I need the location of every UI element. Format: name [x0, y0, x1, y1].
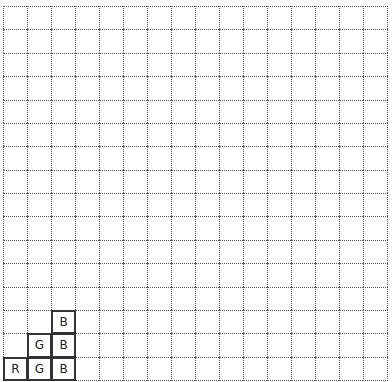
- board-cell[interactable]: [195, 333, 219, 356]
- board-cell[interactable]: [123, 287, 147, 310]
- board-cell[interactable]: [99, 123, 123, 146]
- board-cell[interactable]: [99, 146, 123, 169]
- board-cell[interactable]: [315, 146, 339, 169]
- board-cell[interactable]: [27, 6, 51, 29]
- board-cell[interactable]: [243, 193, 267, 216]
- board-cell[interactable]: [291, 287, 315, 310]
- board-cell[interactable]: [291, 53, 315, 76]
- board-cell[interactable]: [291, 6, 315, 29]
- board-cell[interactable]: [51, 29, 75, 52]
- board-cell[interactable]: [27, 76, 51, 99]
- board-cell[interactable]: [195, 6, 219, 29]
- board-cell[interactable]: [75, 170, 99, 193]
- piece-g[interactable]: G: [27, 357, 52, 381]
- board-cell[interactable]: [315, 29, 339, 52]
- board-cell[interactable]: [363, 193, 388, 216]
- board-cell[interactable]: [267, 357, 291, 381]
- board-cell[interactable]: [171, 76, 195, 99]
- board-cell[interactable]: [339, 263, 363, 286]
- board-cell[interactable]: [3, 100, 27, 123]
- board-cell[interactable]: [267, 146, 291, 169]
- board-cell[interactable]: [291, 123, 315, 146]
- board-cell[interactable]: [123, 29, 147, 52]
- board-cell[interactable]: [363, 287, 388, 310]
- board-cell[interactable]: [27, 146, 51, 169]
- board-cell[interactable]: [51, 263, 75, 286]
- board-cell[interactable]: [123, 263, 147, 286]
- board-cell[interactable]: [363, 357, 388, 381]
- board-cell[interactable]: [363, 333, 388, 356]
- board-cell[interactable]: [243, 123, 267, 146]
- board-cell[interactable]: [243, 100, 267, 123]
- board-cell[interactable]: [147, 170, 171, 193]
- board-cell[interactable]: [219, 333, 243, 356]
- board-cell[interactable]: [147, 29, 171, 52]
- board-cell[interactable]: [147, 6, 171, 29]
- board-cell[interactable]: [99, 310, 123, 333]
- board-cell[interactable]: [171, 263, 195, 286]
- board-cell[interactable]: [339, 170, 363, 193]
- board-cell[interactable]: [3, 6, 27, 29]
- board-cell[interactable]: [339, 216, 363, 239]
- board-cell[interactable]: [291, 146, 315, 169]
- board-cell[interactable]: [75, 333, 99, 356]
- board-cell[interactable]: [3, 240, 27, 263]
- board-cell[interactable]: [339, 123, 363, 146]
- board-cell[interactable]: [123, 170, 147, 193]
- board-cell[interactable]: [315, 216, 339, 239]
- board-cell[interactable]: [219, 216, 243, 239]
- board-cell[interactable]: [75, 216, 99, 239]
- board-cell[interactable]: [3, 333, 27, 356]
- board-cell[interactable]: [123, 310, 147, 333]
- board-cell[interactable]: [315, 53, 339, 76]
- board-cell[interactable]: [123, 6, 147, 29]
- board-cell[interactable]: [75, 310, 99, 333]
- board-cell[interactable]: [291, 333, 315, 356]
- board-cell[interactable]: [3, 310, 27, 333]
- board-cell[interactable]: [291, 310, 315, 333]
- board-cell[interactable]: [219, 29, 243, 52]
- board-cell[interactable]: [195, 357, 219, 381]
- board-cell[interactable]: [219, 6, 243, 29]
- board-cell[interactable]: [147, 357, 171, 381]
- board-cell[interactable]: [171, 193, 195, 216]
- board-cell[interactable]: [363, 53, 388, 76]
- board-cell[interactable]: [291, 216, 315, 239]
- board-cell[interactable]: [267, 263, 291, 286]
- board-cell[interactable]: [171, 53, 195, 76]
- board-cell[interactable]: [51, 287, 75, 310]
- board-cell[interactable]: [243, 6, 267, 29]
- board-cell[interactable]: [267, 333, 291, 356]
- board-cell[interactable]: [3, 263, 27, 286]
- board-cell[interactable]: [123, 216, 147, 239]
- board-cell[interactable]: [243, 357, 267, 381]
- board-cell[interactable]: [195, 123, 219, 146]
- board-cell[interactable]: [99, 29, 123, 52]
- board-cell[interactable]: [75, 53, 99, 76]
- board-cell[interactable]: [339, 6, 363, 29]
- board-cell[interactable]: [363, 263, 388, 286]
- board-cell[interactable]: [267, 100, 291, 123]
- board-cell[interactable]: [363, 29, 388, 52]
- board-cell[interactable]: [123, 193, 147, 216]
- board-cell[interactable]: [363, 100, 388, 123]
- board-cell[interactable]: [147, 146, 171, 169]
- board-cell[interactable]: [75, 193, 99, 216]
- board-cell[interactable]: [363, 170, 388, 193]
- board-cell[interactable]: [123, 53, 147, 76]
- board-cell[interactable]: [243, 310, 267, 333]
- board-cell[interactable]: [339, 240, 363, 263]
- board-cell[interactable]: [267, 123, 291, 146]
- board-cell[interactable]: [339, 146, 363, 169]
- board-cell[interactable]: [363, 216, 388, 239]
- board-cell[interactable]: [243, 287, 267, 310]
- board-cell[interactable]: [315, 123, 339, 146]
- board-cell[interactable]: [315, 100, 339, 123]
- board-cell[interactable]: [363, 310, 388, 333]
- board-cell[interactable]: [147, 76, 171, 99]
- board-cell[interactable]: [51, 216, 75, 239]
- board-cell[interactable]: [267, 193, 291, 216]
- board-cell[interactable]: [219, 287, 243, 310]
- board-cell[interactable]: [171, 170, 195, 193]
- board-cell[interactable]: [363, 123, 388, 146]
